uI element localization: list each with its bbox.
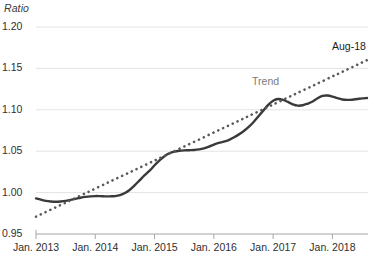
plot-area	[0, 0, 373, 259]
gridlines	[36, 27, 368, 193]
ratio-line	[36, 95, 367, 201]
axis-lines	[36, 230, 368, 239]
trend-line	[36, 60, 367, 216]
ratio-trend-chart: Ratio 0.951.001.051.101.151.20 Jan. 2013…	[0, 0, 373, 259]
series-layer	[36, 60, 367, 216]
